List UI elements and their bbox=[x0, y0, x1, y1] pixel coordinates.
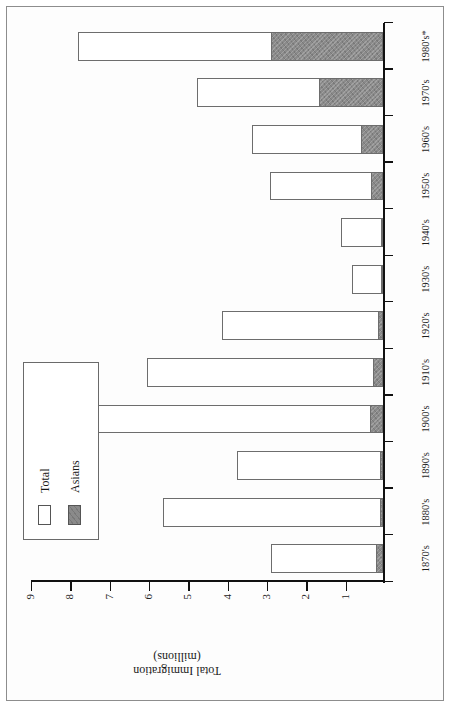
bar-1950s bbox=[270, 171, 383, 200]
chart-legend: Total Asians bbox=[23, 362, 99, 540]
bar-1930s bbox=[352, 264, 383, 293]
bar-segment-asians bbox=[271, 31, 383, 60]
value-axis-line bbox=[31, 580, 385, 582]
category-tick bbox=[384, 534, 393, 535]
value-tick-label: 7 bbox=[104, 594, 115, 624]
category-tick bbox=[384, 440, 393, 441]
value-tick bbox=[149, 582, 150, 591]
category-tick bbox=[384, 114, 393, 115]
bar-1880s bbox=[163, 497, 383, 526]
bar-1960s bbox=[252, 125, 383, 154]
category-tick bbox=[384, 207, 393, 208]
category-tick bbox=[384, 394, 393, 395]
bar-segment-asians bbox=[381, 264, 383, 293]
y-axis-title: Total Immigration (millions) bbox=[87, 650, 267, 678]
bar-segment-asians bbox=[371, 171, 383, 200]
bar-segment-total bbox=[341, 218, 383, 247]
bar-1970s bbox=[197, 78, 383, 107]
legend-item-asians: Asians bbox=[68, 460, 81, 525]
category-tick bbox=[384, 254, 393, 255]
value-tick bbox=[346, 582, 347, 591]
legend-label-total: Total bbox=[39, 468, 51, 493]
legend-label-asians: Asians bbox=[69, 460, 81, 493]
value-tick-label: 3 bbox=[261, 594, 272, 624]
bar-segment-total bbox=[237, 451, 383, 480]
bar-segment-total bbox=[222, 311, 383, 340]
bar-segment-asians bbox=[381, 218, 383, 247]
category-tick bbox=[384, 301, 393, 302]
value-tick bbox=[306, 582, 307, 591]
category-axis-line bbox=[383, 23, 385, 583]
bar-1980s bbox=[78, 31, 383, 60]
value-tick bbox=[31, 582, 32, 591]
value-tick-label: 6 bbox=[143, 594, 154, 624]
bar-1870s bbox=[271, 544, 383, 573]
plot-area: 987654321 1870's1880's1890's1900's1910's… bbox=[13, 18, 437, 690]
bar-segment-total bbox=[352, 264, 383, 293]
bar-segment-total bbox=[270, 171, 383, 200]
bar-segment-asians bbox=[380, 497, 383, 526]
bar-segment-total bbox=[271, 544, 383, 573]
legend-swatch-asians-icon bbox=[68, 505, 81, 525]
category-tick bbox=[384, 21, 393, 22]
bar-segment-asians bbox=[376, 544, 383, 573]
value-tick-label: 5 bbox=[182, 594, 193, 624]
page-frame: 987654321 1870's1880's1890's1900's1910's… bbox=[6, 6, 444, 701]
bar-1940s bbox=[341, 218, 383, 247]
category-label: 1980's* bbox=[420, 16, 431, 76]
bar-segment-total bbox=[147, 357, 383, 386]
category-tick bbox=[384, 68, 393, 69]
category-tick bbox=[384, 161, 393, 162]
value-tick bbox=[228, 582, 229, 591]
value-tick-label: 4 bbox=[222, 594, 233, 624]
category-tick bbox=[384, 347, 393, 348]
bar-segment-asians bbox=[373, 357, 383, 386]
value-tick-label: 2 bbox=[300, 594, 311, 624]
category-tick bbox=[384, 580, 393, 581]
category-tick bbox=[384, 487, 393, 488]
bar-segment-asians bbox=[319, 78, 383, 107]
y-axis-title-line1: Total Immigration bbox=[87, 664, 267, 678]
value-tick-label: 9 bbox=[25, 594, 36, 624]
bar-segment-total bbox=[163, 497, 383, 526]
value-tick-label: 1 bbox=[340, 594, 351, 624]
bar-1890s bbox=[237, 451, 383, 480]
immigration-bar-chart: 987654321 1870's1880's1890's1900's1910's… bbox=[13, 18, 437, 690]
bar-segment-asians bbox=[370, 404, 383, 433]
bar-1910s bbox=[147, 357, 383, 386]
value-tick bbox=[267, 582, 268, 591]
bar-segment-asians bbox=[361, 125, 383, 154]
legend-swatch-total-icon bbox=[38, 505, 51, 525]
bar-1920s bbox=[222, 311, 383, 340]
legend-item-total: Total bbox=[38, 468, 51, 525]
bar-segment-asians bbox=[380, 451, 383, 480]
bar-segment-asians bbox=[378, 311, 383, 340]
value-tick bbox=[188, 582, 189, 591]
value-tick-label: 8 bbox=[64, 594, 75, 624]
y-axis-title-line2: (millions) bbox=[87, 650, 267, 664]
value-tick bbox=[110, 582, 111, 591]
value-tick bbox=[70, 582, 71, 591]
